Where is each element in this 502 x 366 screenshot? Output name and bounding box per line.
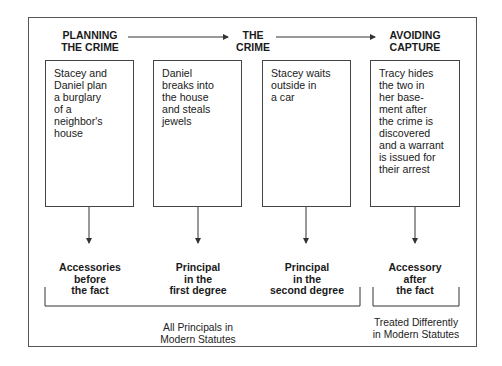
- group-label-principals: All Principals in Modern Statutes: [148, 322, 248, 345]
- group-label-treated-differently: Treated Differently in Modern Statutes: [363, 317, 469, 340]
- event-box-planning: Stacey and Daniel plan a burglary of a n…: [45, 60, 134, 207]
- role-principal-first: Principal in the first degree: [153, 262, 243, 297]
- event-box-hiding: Tracy hides the two in her base- ment af…: [370, 60, 460, 207]
- event-box-lookout: Stacey waits outside in a car: [262, 60, 351, 207]
- stage-capture-heading: AVOIDING CAPTURE: [375, 29, 455, 53]
- role-principal-second: Principal in the second degree: [258, 262, 356, 297]
- stage-planning-heading: PLANNING THE CRIME: [50, 29, 130, 53]
- stage-crime-heading: THE CRIME: [228, 29, 278, 53]
- role-accessory-after: Accessory after the fact: [370, 262, 460, 297]
- role-accessories-before: Accessories before the fact: [45, 262, 135, 297]
- event-box-break-in: Daniel breaks into the house and steals …: [153, 60, 242, 207]
